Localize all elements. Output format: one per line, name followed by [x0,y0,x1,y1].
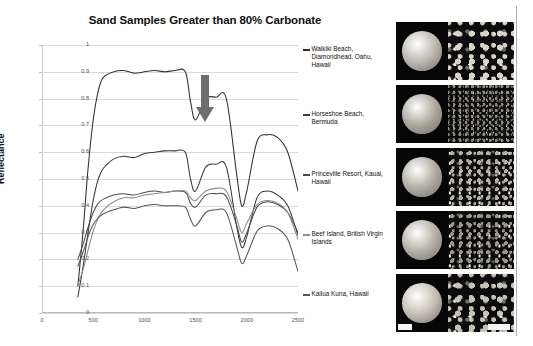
y-tick-label: 0.5 [49,176,89,182]
legend-item[interactable]: Waikiki Beach, Diamondhead, Oahu, Hawaii [303,45,389,70]
y-tick-label: 0.3 [49,230,89,236]
y-tick-mark [39,286,42,287]
grain-texture [448,85,514,143]
legend-color-swatch [303,294,310,296]
y-tick-label: 0.6 [49,149,89,155]
y-tick-label: 0.4 [49,203,89,209]
y-tick-mark [39,179,42,180]
legend-color-swatch [303,114,310,116]
sample-dish-photo [396,274,448,332]
x-tick-label: 0 [22,318,62,324]
sample-panel[interactable] [396,22,514,80]
sample-dish-photo [396,211,448,269]
y-tick-mark [39,206,42,207]
sample-grain-photo [448,274,514,332]
sample-dish-photo [396,148,448,206]
spectral-curve [78,204,298,271]
spectral-curve [78,150,298,297]
y-tick-mark [39,125,42,126]
grain-texture [448,211,514,269]
sample-dish-photo [396,85,448,143]
sample-grain-photo [448,148,514,206]
scale-bar [398,324,412,330]
legend-item-label: Waikiki Beach, Diamondhead, Oahu, Hawaii [312,45,390,70]
spectral-curve [78,69,298,286]
sample-grain-photo [448,22,514,80]
x-tick-label: 1000 [124,318,164,324]
y-axis-label: Reflectance [0,133,6,184]
legend-item[interactable]: Beef Island, British Virgin Islands [303,230,389,246]
y-tick-label: 0.1 [49,283,89,289]
spectral-curve [78,191,298,259]
scale-bar [488,324,510,330]
legend-color-swatch [303,234,310,236]
x-tick-label: 1500 [176,318,216,324]
sample-dish-circle [402,157,442,197]
y-tick-mark [39,72,42,73]
legend-item[interactable]: Kailua Kuna, Hawaii [303,290,389,298]
y-tick-label: 0.9 [49,69,89,75]
y-tick-mark [39,259,42,260]
sample-photo-strip [396,22,514,334]
y-tick-mark [39,313,42,314]
grain-texture [448,148,514,206]
legend-item[interactable]: Horseshoe Beach, Bermuda [303,110,389,126]
sample-dish-circle [402,31,442,71]
chart-title: Sand Samples Greater than 80% Carbonate [60,14,350,26]
sample-grain-photo [448,211,514,269]
right-divider [516,6,517,336]
legend-item-label: Beef Island, British Virgin Islands [312,230,390,246]
sample-panel[interactable] [396,211,514,269]
legend-color-swatch [303,174,310,176]
sample-grain-photo [448,85,514,143]
grain-texture [448,22,514,80]
y-tick-label: 1 [49,42,89,48]
x-tick-label: 500 [73,318,113,324]
chart-legend: Waikiki Beach, Diamondhead, Oahu, Hawaii… [303,34,391,334]
y-tick-label: 0.2 [49,256,89,262]
y-tick-label: 0.8 [49,96,89,102]
y-tick-mark [39,99,42,100]
legend-item-label: Princeville Resort, Kauai, Hawaii [312,170,390,186]
sample-panel[interactable] [396,148,514,206]
down-arrow-annotation [195,75,215,123]
x-tick-label: 2000 [227,318,267,324]
legend-item[interactable]: Princeville Resort, Kauai, Hawaii [303,170,389,186]
y-tick-label: 0 [49,310,89,316]
y-tick-mark [39,233,42,234]
sample-dish-circle [402,94,442,134]
legend-item-label: Horseshoe Beach, Bermuda [312,110,390,126]
y-tick-mark [39,45,42,46]
sample-dish-circle [402,220,442,260]
figure-root: Sand Samples Greater than 80% Carbonate … [0,0,533,346]
legend-item-label: Kailua Kuna, Hawaii [312,290,369,298]
sample-panel[interactable] [396,274,514,332]
sample-panel[interactable] [396,85,514,143]
legend-color-swatch [303,49,310,51]
sample-dish-circle [402,283,442,323]
y-tick-mark [39,152,42,153]
y-tick-label: 0.7 [49,122,89,128]
sample-dish-photo [396,22,448,80]
